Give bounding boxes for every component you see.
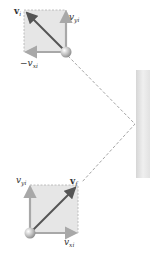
outgoing-velocity-group: vf vyi vxi — [16, 175, 79, 248]
label-vi: vi — [13, 6, 21, 17]
label-bottom-vxi: vxi — [64, 237, 74, 248]
label-neg-vxi: −vxi — [20, 58, 38, 69]
trajectory-path — [68, 56, 135, 182]
label-top-vyi: vyi — [69, 12, 79, 24]
ball-bottom — [25, 228, 36, 239]
incoming-velocity-group: vi vyi −vxi — [13, 6, 79, 69]
ball-top — [61, 47, 72, 58]
ball-wall-collision-diagram: vi vyi −vxi vf vyi vxi — [0, 0, 151, 255]
wall — [136, 70, 150, 178]
label-bottom-vyi: vyi — [16, 175, 26, 187]
